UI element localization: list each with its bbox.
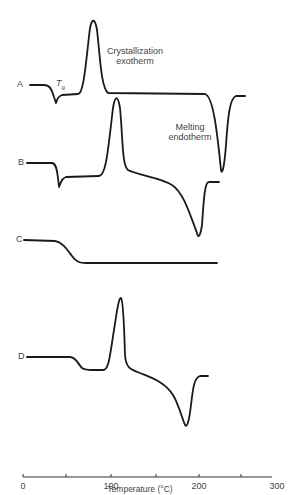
melting-endotherm-label: Melting endotherm [166, 122, 214, 142]
x-axis-title: Temperature (°C) [107, 484, 172, 494]
cryst-line2: exotherm [104, 56, 166, 66]
crystallization-exotherm-label: Crystallization exotherm [104, 46, 166, 66]
x-tick-label-200: 200 [191, 481, 206, 491]
curve-b [27, 98, 219, 236]
melt-line2: endotherm [166, 132, 214, 142]
curve-b-label: B [18, 157, 24, 167]
curve-a [30, 21, 245, 172]
curve-d [27, 298, 208, 426]
curve-d-label: D [18, 351, 25, 361]
x-tick-label-0: 0 [20, 481, 25, 491]
cryst-line1: Crystallization [104, 46, 166, 56]
tg-annotation: Tg [56, 78, 65, 90]
dsc-thermogram [0, 0, 298, 495]
melt-line1: Melting [166, 122, 214, 132]
curve-a-label: A [17, 79, 23, 89]
x-tick-label-300: 300 [269, 481, 284, 491]
curve-c [24, 240, 217, 263]
curve-c-label: C [16, 234, 23, 244]
